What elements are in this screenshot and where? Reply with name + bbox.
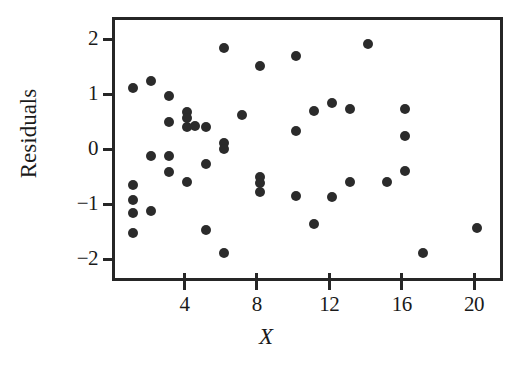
y-axis-tick-label: −1: [64, 193, 98, 214]
data-point: [182, 177, 192, 187]
data-point: [345, 104, 355, 114]
data-point: [327, 98, 337, 108]
data-point: [219, 144, 229, 154]
data-point: [418, 248, 428, 258]
data-point: [128, 228, 138, 238]
data-point: [363, 39, 373, 49]
data-point: [146, 76, 156, 86]
data-point: [201, 225, 211, 235]
x-axis-tick-label: 20: [452, 294, 496, 315]
data-point: [164, 167, 174, 177]
data-point: [400, 131, 410, 141]
data-point: [291, 51, 301, 61]
x-axis-title: X: [0, 325, 532, 348]
data-point: [255, 187, 265, 197]
data-point: [219, 43, 229, 53]
x-axis-tick: [328, 273, 331, 290]
x-axis-tick-label: 8: [235, 294, 279, 315]
data-point: [128, 195, 138, 205]
data-point: [291, 126, 301, 136]
data-point: [237, 110, 247, 120]
y-axis-tick-label: 0: [64, 138, 98, 159]
x-axis-tick: [400, 273, 403, 290]
data-point: [382, 177, 392, 187]
data-point: [128, 208, 138, 218]
data-points-layer: [115, 20, 500, 278]
data-point: [190, 121, 200, 131]
data-point: [201, 122, 211, 132]
data-point: [164, 91, 174, 101]
x-axis-tick: [255, 273, 258, 290]
data-point: [146, 151, 156, 161]
data-point: [327, 192, 337, 202]
y-axis-tick-label: −2: [64, 248, 98, 269]
data-point: [291, 191, 301, 201]
data-point: [128, 83, 138, 93]
x-axis-tick-label: 12: [307, 294, 351, 315]
y-axis-tick-label: 1: [64, 83, 98, 104]
data-point: [146, 206, 156, 216]
x-axis-tick-label: 4: [162, 294, 206, 315]
data-point: [400, 104, 410, 114]
data-point: [164, 151, 174, 161]
data-point: [255, 61, 265, 71]
x-axis-tick: [473, 273, 476, 290]
x-axis-tick: [183, 273, 186, 290]
y-axis-title: Residuals: [17, 59, 40, 209]
plot-area: [112, 17, 503, 281]
y-axis-tick-labels: 210−1−2: [64, 0, 98, 367]
data-point: [164, 117, 174, 127]
data-point: [201, 159, 211, 169]
data-point: [128, 180, 138, 190]
x-axis-tick-label: 16: [380, 294, 424, 315]
data-point: [309, 106, 319, 116]
data-point: [472, 223, 482, 233]
data-point: [400, 166, 410, 176]
data-point: [345, 177, 355, 187]
y-axis-tick-label: 2: [64, 28, 98, 49]
data-point: [219, 248, 229, 258]
data-point: [309, 219, 319, 229]
scatter-plot-figure: Residuals 210−1−2 48121620 X: [0, 0, 532, 367]
